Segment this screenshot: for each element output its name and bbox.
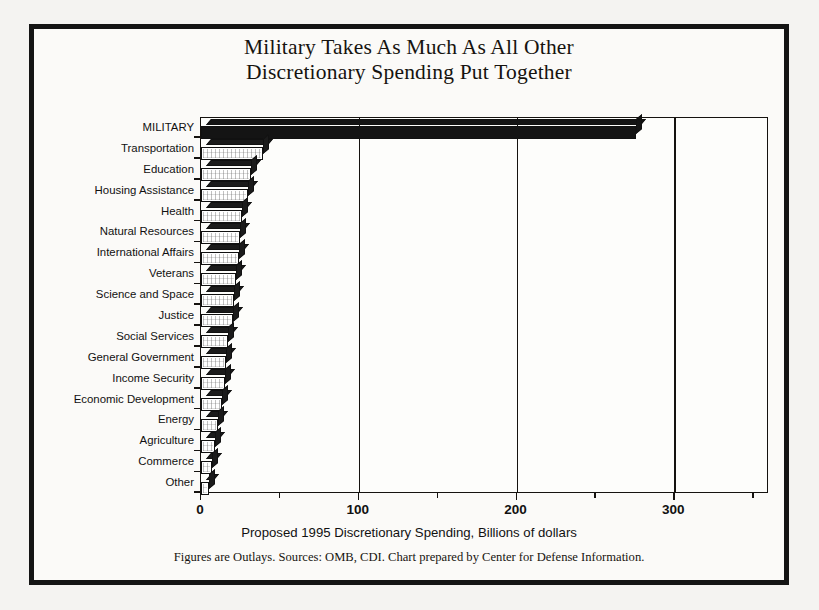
bar-texture — [203, 191, 246, 200]
category-label-energy: Energy — [158, 413, 194, 425]
bar-body — [201, 181, 248, 202]
category-label-education: Education — [143, 163, 194, 175]
bar-housing-assistance — [201, 181, 248, 202]
x-tick-label-100: 100 — [347, 502, 370, 517]
chart-title: Military Takes As Much As All Other Disc… — [34, 35, 784, 85]
bar-body — [201, 369, 225, 390]
y-tick — [194, 429, 201, 431]
chart-page: Military Takes As Much As All Other Disc… — [0, 0, 819, 610]
category-label-economic-development: Economic Development — [74, 393, 194, 405]
bar-front-face — [201, 252, 239, 265]
bar-body — [201, 474, 209, 495]
bar-body — [201, 265, 236, 286]
bar-body — [201, 453, 212, 474]
bar-texture — [203, 275, 234, 284]
bar-agriculture — [201, 432, 215, 453]
category-label-social-services: Social Services — [116, 330, 194, 342]
bar-side-face — [228, 322, 234, 342]
bar-texture — [203, 233, 238, 242]
bar-commerce — [201, 453, 212, 474]
bar-front-face — [201, 335, 228, 348]
bar-front-face — [201, 377, 225, 390]
category-label-housing-assistance: Housing Assistance — [95, 184, 194, 196]
y-tick — [194, 366, 201, 368]
bar-side-face — [251, 155, 257, 175]
y-tick — [194, 324, 201, 326]
chart-title-line-1: Military Takes As Much As All Other — [34, 35, 784, 60]
bar-other — [201, 474, 209, 495]
bar-front-face — [201, 356, 226, 369]
category-label-justice: Justice — [159, 309, 194, 321]
x-tick-minor-250 — [594, 493, 595, 498]
bar-top-face — [206, 119, 646, 125]
bar-economic-development — [201, 390, 222, 411]
bar-body — [201, 160, 251, 181]
bar-side-face — [636, 113, 642, 133]
bar-body — [201, 307, 233, 328]
y-tick — [194, 283, 201, 285]
bar-front-face — [201, 294, 234, 307]
bar-education — [201, 160, 251, 181]
x-tick-label-0: 0 — [196, 502, 204, 517]
bar-side-face — [242, 197, 248, 217]
bar-body — [201, 327, 228, 348]
bar-texture — [203, 421, 216, 430]
bar-income-security — [201, 369, 225, 390]
bar-body — [201, 202, 242, 223]
y-tick — [194, 220, 201, 222]
bar-texture — [203, 442, 213, 451]
category-label-science-and-space: Science and Space — [96, 288, 194, 300]
bar-general-government — [201, 348, 226, 369]
bar-texture — [203, 400, 220, 409]
bar-body — [201, 432, 215, 453]
x-tick-0 — [200, 493, 201, 500]
bar-side-face — [218, 406, 224, 426]
plot-area — [200, 117, 768, 493]
bar-texture — [203, 358, 224, 367]
bar-texture — [203, 463, 210, 472]
bar-side-face — [234, 281, 240, 301]
bar-body — [201, 348, 226, 369]
x-tick-200 — [516, 493, 517, 500]
x-axis-label: Proposed 1995 Discretionary Spending, Bi… — [34, 525, 784, 540]
y-tick — [194, 157, 201, 159]
bar-side-face — [263, 134, 269, 154]
chart-outer-frame: Military Takes As Much As All Other Disc… — [29, 24, 789, 585]
chart-title-line-2: Discretionary Spending Put Together — [34, 60, 784, 85]
bar-side-face — [240, 218, 246, 238]
x-tick-300 — [673, 493, 674, 500]
bar-body — [201, 286, 234, 307]
y-tick — [194, 387, 201, 389]
category-label-veterans: Veterans — [149, 267, 194, 279]
bar-side-face — [215, 427, 221, 447]
bar-texture — [203, 484, 207, 493]
y-tick — [194, 199, 201, 201]
x-tick-label-200: 200 — [504, 502, 527, 517]
category-label-transportation: Transportation — [121, 142, 194, 154]
bar-social-services — [201, 327, 228, 348]
bar-justice — [201, 307, 233, 328]
bar-texture — [203, 170, 249, 179]
bar-international-affairs — [201, 244, 239, 265]
bar-health — [201, 202, 242, 223]
bar-texture — [203, 337, 226, 346]
y-tick — [194, 303, 201, 305]
bar-texture — [203, 379, 223, 388]
category-label-military: MILITARY — [143, 121, 194, 133]
bar-side-face — [222, 385, 228, 405]
bar-series — [201, 118, 767, 492]
bar-front-face — [201, 273, 236, 286]
y-tick — [194, 471, 201, 473]
x-tick-label-300: 300 — [662, 502, 685, 517]
x-tick-100 — [358, 493, 359, 500]
y-tick — [194, 262, 201, 264]
category-label-natural-resources: Natural Resources — [100, 225, 194, 237]
bar-texture — [203, 296, 232, 305]
bar-veterans — [201, 265, 236, 286]
y-tick — [194, 345, 201, 347]
category-label-general-government: General Government — [88, 351, 194, 363]
bar-front-face — [201, 189, 248, 202]
bar-texture — [203, 212, 240, 221]
chart-canvas: Military Takes As Much As All Other Disc… — [34, 29, 784, 580]
y-tick — [194, 136, 201, 138]
